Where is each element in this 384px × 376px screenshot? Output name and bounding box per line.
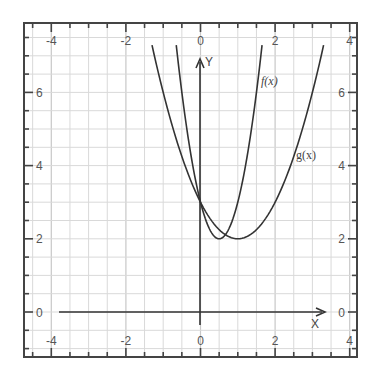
x-axis-label: X xyxy=(311,317,319,331)
y-tick-label-left: 6 xyxy=(36,86,43,100)
x-tick-label-bottom: 0 xyxy=(197,334,204,348)
plot-frame xyxy=(24,23,357,357)
y-tick-label-right: 4 xyxy=(338,159,345,173)
g-label: g(x) xyxy=(296,148,316,162)
function-graph: -4-4-2-200224400224466 X Y f(x) g(x) xyxy=(0,0,384,376)
y-tick-label-left: 4 xyxy=(36,159,43,173)
grid-lines xyxy=(24,23,357,357)
frame-ticks xyxy=(24,23,357,357)
x-tick-label-bottom: 2 xyxy=(272,334,279,348)
y-axis-label: Y xyxy=(205,55,213,69)
x-tick-label-top: 2 xyxy=(272,34,279,48)
x-tick-label-top: 4 xyxy=(346,34,353,48)
y-tick-label-right: 2 xyxy=(338,232,345,246)
y-tick-label-right: 0 xyxy=(338,306,345,320)
x-tick-label-bottom: -2 xyxy=(121,334,132,348)
f-label: f(x) xyxy=(261,74,278,88)
x-tick-label-bottom: 4 xyxy=(346,334,353,348)
x-tick-label-top: 0 xyxy=(197,34,204,48)
x-tick-label-bottom: -4 xyxy=(46,334,57,348)
x-tick-label-top: -4 xyxy=(46,34,57,48)
x-tick-label-top: -2 xyxy=(121,34,132,48)
y-tick-label-left: 0 xyxy=(36,306,43,320)
y-tick-label-right: 6 xyxy=(338,86,345,100)
y-tick-label-left: 2 xyxy=(36,232,43,246)
